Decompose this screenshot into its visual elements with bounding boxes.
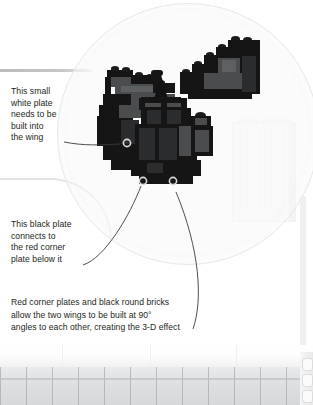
callout-black-plate: This black plate connects to the red cor…	[11, 219, 91, 265]
background-right-post	[300, 196, 306, 346]
white-baseplate-row	[0, 345, 313, 368]
baseplate-seam	[0, 378, 305, 380]
baseplate-stripes	[0, 367, 305, 405]
callout-white-plate: This small white plate needs to be built…	[11, 86, 77, 144]
lego-model-assembly	[95, 68, 225, 203]
background-right-column	[300, 352, 313, 405]
photo-canvas: This small white plate needs to be built…	[0, 0, 313, 405]
callout-red-corner-plates: Red corner plates and black round bricks…	[11, 296, 211, 334]
black-cone-piece	[154, 75, 168, 99]
